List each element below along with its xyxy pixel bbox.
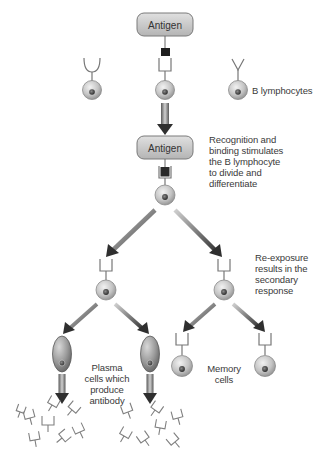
antibody-cluster-1 [14, 396, 87, 448]
nucleus-icon [162, 89, 168, 95]
arrow-antibody-1 [55, 374, 69, 404]
label-plasma-cells: Plasma cells which produce antibody [82, 362, 132, 406]
nucleus-icon [147, 360, 153, 366]
nucleus-icon [89, 89, 95, 95]
arrow-to-plasma-2 [115, 304, 149, 334]
reexposure-line-2: results in the [255, 263, 308, 274]
arrow-antibody-2 [143, 374, 157, 404]
dividing-cell-left [96, 259, 116, 300]
plasma-line-4: antibody [82, 395, 132, 406]
nucleus-icon [59, 360, 65, 366]
stimulated-b-lymphocyte [155, 185, 175, 205]
recognition-line-3: the B lymphocyte [209, 156, 283, 167]
label-reexposure: Re-exposure results in the secondary res… [255, 252, 308, 296]
nucleus-icon [262, 366, 268, 372]
plasma-line-3: produce [82, 384, 132, 395]
label-b-lymphocytes: B lymphocytes [252, 85, 312, 96]
nucleus-icon [179, 366, 185, 372]
plasma-cell-2 [141, 336, 160, 372]
memory-cell-2 [255, 333, 276, 377]
dividing-cell-right [214, 259, 234, 300]
arrow-to-memory-branch [175, 210, 222, 257]
memory-cell-1 [172, 333, 193, 377]
arrow-to-plasma-1 [63, 304, 97, 334]
receptor-square-icon [159, 58, 171, 71]
arrow-to-memory-1 [183, 304, 215, 332]
arrow-to-plasma-branch [106, 210, 155, 257]
recognition-line-4: to divide and [209, 167, 283, 178]
antigen-middle-label: Antigen [148, 143, 182, 154]
b-lymphocyte-left [83, 58, 102, 100]
plasma-line-1: Plasma [82, 362, 132, 373]
receptor-y-icon [232, 59, 244, 70]
memory-line-1: Memory [202, 363, 246, 374]
label-recognition: Recognition and binding stimulates the B… [209, 134, 283, 189]
reexposure-line-4: response [255, 285, 308, 296]
reexposure-line-1: Re-exposure [255, 252, 308, 263]
nucleus-icon [235, 89, 241, 95]
arrow-to-memory-2 [233, 304, 265, 332]
plasma-cell-1 [53, 336, 72, 372]
nucleus-icon [103, 289, 109, 295]
receptor-u-icon [84, 58, 100, 72]
antigen-block-top [161, 48, 170, 56]
b-lymphocyte-middle [156, 58, 175, 100]
b-lymphocyte-right [229, 59, 248, 100]
nucleus-icon [221, 289, 227, 295]
plasma-line-2: cells which [82, 373, 132, 384]
nucleus-icon [162, 194, 168, 200]
reexposure-line-3: secondary [255, 274, 308, 285]
antigen-box-middle: Antigen [137, 136, 193, 159]
memory-line-2: cells [202, 374, 246, 385]
antigen-box-top: Antigen [137, 13, 193, 36]
antibody-cluster-2 [116, 401, 184, 451]
antigen-receptor-bound [159, 166, 171, 185]
antigen-top-label: Antigen [148, 20, 182, 31]
recognition-line-2: binding stimulates [209, 145, 283, 156]
diagram-canvas: Antigen Antigen [0, 0, 327, 475]
label-memory-cells: Memory cells [202, 363, 246, 385]
arrow-down-main [157, 103, 173, 135]
recognition-line-5: differentiate [209, 178, 283, 189]
recognition-line-1: Recognition and [209, 134, 283, 145]
